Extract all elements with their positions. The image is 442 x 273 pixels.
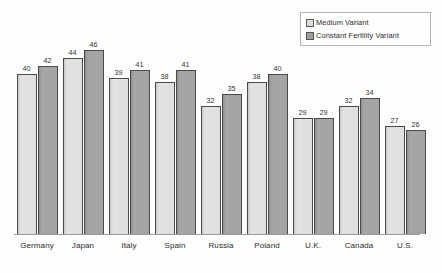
category-label: Japan — [60, 241, 106, 251]
bar-column: 46 — [84, 20, 104, 234]
bar-column: 35 — [222, 20, 242, 234]
bar-column: 39 — [109, 20, 129, 234]
bar-value-label: 32 — [345, 97, 353, 105]
bar[interactable]: 40 — [17, 74, 37, 234]
bar-value-label: 35 — [228, 85, 236, 93]
bar-value-label: 38 — [161, 73, 169, 81]
bar-value-label: 34 — [366, 89, 374, 97]
bar[interactable]: 46 — [84, 50, 104, 234]
bar-value-label: 27 — [391, 117, 399, 125]
bar-value-label: 40 — [274, 65, 282, 73]
bar-column: 34 — [360, 20, 380, 234]
bar[interactable]: 29 — [314, 118, 334, 234]
bar-value-label: 41 — [136, 61, 144, 69]
bar-value-label: 42 — [44, 57, 52, 65]
bar-chart: Medium Variant Constant Fertility Varian… — [0, 0, 442, 273]
bar-column: 27 — [385, 20, 405, 234]
bar-column: 26 — [406, 20, 426, 234]
category-label: Italy — [106, 241, 152, 251]
category-label: Spain — [152, 241, 198, 251]
bar-value-label: 39 — [115, 69, 123, 77]
bar-column: 40 — [268, 20, 288, 234]
bar-value-label: 26 — [412, 121, 420, 129]
bar[interactable]: 39 — [109, 78, 129, 234]
x-axis-category-labels: GermanyJapanItalySpainRussiaPolandU.K.Ca… — [14, 241, 428, 251]
bar[interactable]: 34 — [360, 98, 380, 234]
plot-area: 404244463941384132353840292932342726 — [14, 20, 428, 234]
bar-value-label: 29 — [299, 109, 307, 117]
bar[interactable]: 32 — [201, 106, 221, 234]
bar-value-label: 44 — [69, 49, 77, 57]
category-label: Germany — [14, 241, 60, 251]
bar-column: 29 — [293, 20, 313, 234]
bar-column: 44 — [63, 20, 83, 234]
category-label: Canada — [336, 241, 382, 251]
bar[interactable]: 38 — [155, 82, 175, 234]
bar[interactable]: 41 — [176, 70, 196, 234]
bar-group: 3235 — [198, 20, 244, 234]
x-axis-line — [14, 234, 420, 235]
bar-group: 4446 — [60, 20, 106, 234]
bar-column: 32 — [201, 20, 221, 234]
bar[interactable]: 42 — [38, 66, 58, 234]
bar-column: 40 — [17, 20, 37, 234]
bar[interactable]: 27 — [385, 126, 405, 234]
bar[interactable]: 35 — [222, 94, 242, 234]
category-label: U.K. — [290, 241, 336, 251]
category-label: Russia — [198, 241, 244, 251]
bar-column: 42 — [38, 20, 58, 234]
bar-value-label: 41 — [182, 61, 190, 69]
bar-groups: 404244463941384132353840292932342726 — [14, 20, 428, 234]
bar[interactable]: 26 — [406, 130, 426, 234]
bar[interactable]: 40 — [268, 74, 288, 234]
bar-group: 3941 — [106, 20, 152, 234]
bar[interactable]: 44 — [63, 58, 83, 234]
bar[interactable]: 41 — [130, 70, 150, 234]
bar-column: 32 — [339, 20, 359, 234]
bar-column: 41 — [130, 20, 150, 234]
bar-column: 38 — [247, 20, 267, 234]
bar-value-label: 38 — [253, 73, 261, 81]
bar-group: 3840 — [244, 20, 290, 234]
bar-column: 29 — [314, 20, 334, 234]
bar[interactable]: 32 — [339, 106, 359, 234]
bar-value-label: 40 — [23, 65, 31, 73]
bar-column: 38 — [155, 20, 175, 234]
bar-value-label: 32 — [207, 97, 215, 105]
category-label: Poland — [244, 241, 290, 251]
category-label: U.S. — [382, 241, 428, 251]
bar[interactable]: 38 — [247, 82, 267, 234]
bar-group: 3234 — [336, 20, 382, 234]
bar[interactable]: 29 — [293, 118, 313, 234]
bar-value-label: 46 — [90, 41, 98, 49]
bar-group: 4042 — [14, 20, 60, 234]
bar-value-label: 29 — [320, 109, 328, 117]
bar-group: 2726 — [382, 20, 428, 234]
bar-group: 3841 — [152, 20, 198, 234]
bar-column: 41 — [176, 20, 196, 234]
bar-group: 2929 — [290, 20, 336, 234]
